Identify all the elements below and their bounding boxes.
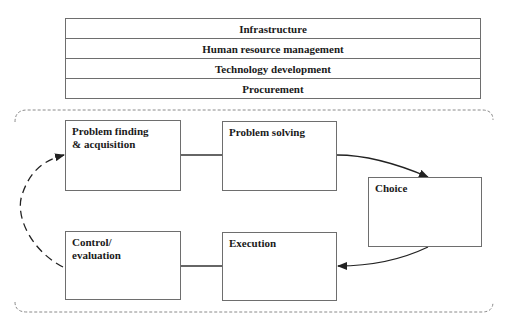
node-label: Choice <box>375 182 407 194</box>
node-choice: Choice <box>368 177 482 247</box>
node-label: Execution <box>229 237 276 249</box>
support-row-infrastructure: Infrastructure <box>66 19 480 39</box>
support-row-hr-management: Human resource management <box>66 39 480 59</box>
node-problem-solving: Problem solving <box>222 121 337 191</box>
node-label: Problem finding & acquisition <box>72 125 149 150</box>
node-label: Control/ evaluation <box>72 236 121 261</box>
node-execution: Execution <box>222 232 337 301</box>
node-control-evaluation: Control/ evaluation <box>65 231 181 300</box>
arrow-solving-to-choice <box>337 155 428 177</box>
support-activities-table: Infrastructure Human resource management… <box>65 18 481 99</box>
arrow-control-to-finding-dashed <box>20 155 64 267</box>
node-label: Problem solving <box>229 126 305 138</box>
support-row-technology-development: Technology development <box>66 59 480 79</box>
node-problem-finding: Problem finding & acquisition <box>65 120 181 191</box>
arrow-choice-to-execution <box>338 247 428 266</box>
support-row-procurement: Procurement <box>66 79 480 99</box>
